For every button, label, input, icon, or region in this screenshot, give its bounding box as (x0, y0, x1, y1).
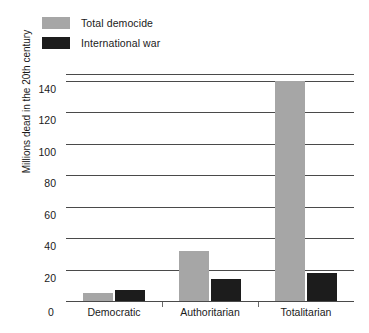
bar-democratic-international-war (115, 290, 145, 301)
y-tick-label-20: 20 (44, 273, 56, 284)
bar-series-container (66, 74, 354, 302)
chart-legend: Total democide International war (42, 16, 160, 49)
bar-authoritarian-total-democide (179, 251, 209, 301)
y-tick-label-140: 140 (38, 84, 56, 95)
bar-totalitarian-total-democide (275, 81, 305, 301)
bar-authoritarian-international-war (211, 279, 241, 301)
bar-group-totalitarian (275, 74, 337, 301)
legend-label-international-war: International war (81, 37, 160, 49)
bar-group-authoritarian (179, 74, 241, 301)
x-label-totalitarian: Totalitarian (281, 306, 332, 319)
y-tick-label-80: 80 (44, 178, 56, 189)
x-label-authoritarian: Authoritarian (180, 306, 240, 319)
bar-totalitarian-international-war (307, 273, 337, 301)
x-axis-category-labels: DemocraticAuthoritarianTotalitarian (66, 306, 354, 322)
chart-page: { "chart_data": { "type": "bar", "title"… (0, 0, 369, 333)
y-tick-label-100: 100 (38, 147, 56, 158)
x-label-democratic: Democratic (87, 306, 140, 319)
plot-area (66, 74, 354, 302)
legend-item-international-war: International war (42, 36, 160, 49)
y-tick-label-60: 60 (44, 210, 56, 221)
legend-swatch-gray-icon (42, 17, 70, 29)
y-tick-label-40: 40 (44, 241, 56, 252)
y-tick-label-120: 120 (38, 115, 56, 126)
legend-label-total-democide: Total democide (81, 17, 153, 29)
y-axis-zero-label: 0 (48, 306, 54, 319)
legend-swatch-black-icon (42, 37, 70, 49)
y-axis-tick-labels: 20406080100120140 (0, 74, 60, 314)
bar-democratic-total-democide (83, 293, 113, 301)
legend-item-total-democide: Total democide (42, 16, 160, 29)
bar-group-democratic (83, 74, 145, 301)
